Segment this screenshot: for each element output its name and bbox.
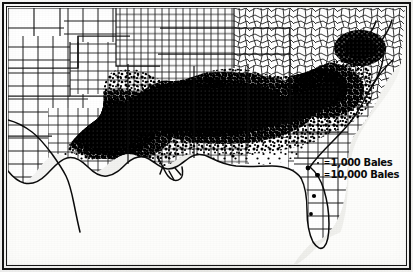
figure-frame-inner-rule	[6, 6, 407, 266]
legend-large-dot-icon	[311, 173, 324, 178]
legend-label-10000-bales: 10,000 Bales	[331, 170, 399, 180]
legend-small-dot-icon	[311, 162, 324, 164]
legend-label-1000-bales: 1,000 Bales	[331, 158, 393, 168]
legend-entry-1000-bales: = 1,000 Bales	[311, 158, 399, 168]
legend-entry-10000-bales: = 10,000 Bales	[311, 170, 399, 180]
map-legend: = 1,000 Bales = 10,000 Bales	[311, 158, 399, 180]
cotton-dot-density-map-figure: = 1,000 Bales = 10,000 Bales	[0, 0, 413, 272]
